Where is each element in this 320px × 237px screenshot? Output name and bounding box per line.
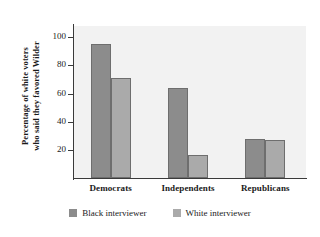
y-tick-80 <box>68 65 73 66</box>
y-tick-40 <box>68 122 73 123</box>
y-tick-label-40: 40 <box>40 117 66 126</box>
y-tick-100 <box>68 37 73 38</box>
legend-swatch-icon <box>173 209 181 217</box>
y-tick-label-text: 20 <box>42 145 66 154</box>
legend-label: White interviewer <box>186 208 251 218</box>
x-axis-label-republicans: Republicans <box>220 183 310 194</box>
legend-label: Black interviewer <box>82 208 146 218</box>
bar-democrats-black <box>91 44 111 178</box>
y-tick-20 <box>68 150 73 151</box>
y-tick-label-text: 100 <box>42 32 66 41</box>
legend-item-0: Black interviewer <box>69 208 146 218</box>
y-axis-title-line1: Percentage of white voters <box>20 41 31 151</box>
y-tick-label-20: 20 <box>40 145 66 154</box>
y-tick-label-80: 80 <box>40 60 66 69</box>
y-tick-label-text: 80 <box>42 60 66 69</box>
y-axis-line <box>73 24 74 180</box>
bar-republicans-white <box>265 140 285 178</box>
y-tick-label-text: 40 <box>42 117 66 126</box>
bar-independents-black <box>168 88 188 178</box>
x-axis-line <box>73 178 307 179</box>
y-tick-label-text: 60 <box>42 89 66 98</box>
bar-democrats-white <box>111 78 131 178</box>
y-tick-60 <box>68 94 73 95</box>
y-tick-label-60: 60 <box>40 89 66 98</box>
chart-legend: Black interviewerWhite interviewer <box>0 208 320 218</box>
y-tick-label-100: 100 <box>40 32 66 41</box>
legend-swatch-icon <box>69 209 77 217</box>
bar-independents-white <box>188 155 208 178</box>
legend-item-1: White interviewer <box>173 208 251 218</box>
bar-chart-figure: Percentage of white voters who said they… <box>0 0 320 237</box>
bar-republicans-black <box>245 139 265 178</box>
